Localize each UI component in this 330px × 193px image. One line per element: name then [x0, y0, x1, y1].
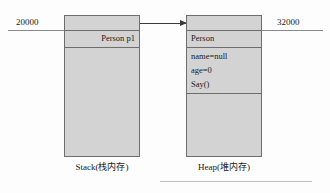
heap-class-label: Person [191, 33, 214, 44]
stack-variable-label: Person p1 [101, 33, 135, 44]
heap-member-field-age: age=0 [191, 63, 261, 77]
heap-member-field-name: name=null [191, 49, 261, 63]
bottom-rule [160, 181, 312, 182]
heap-caption: Heap(堆内存) [176, 163, 272, 172]
heap-address-leader-line [261, 30, 323, 31]
stack-variable-cell: Person p1 [65, 31, 139, 48]
heap-memory-box: Person name=null age=0 Say() [186, 15, 262, 157]
heap-free-space-cell [187, 94, 261, 157]
memory-diagram: 20000 32000 Person p1 Person name=null a… [0, 0, 330, 193]
stack-top-cell [65, 16, 139, 31]
stack-free-space-cell [65, 48, 139, 157]
stack-caption: Stack(栈内存) [54, 163, 150, 172]
heap-member-method-say: Say() [191, 77, 261, 91]
stack-memory-box: Person p1 [64, 15, 140, 157]
heap-address-label: 32000 [277, 18, 300, 27]
stack-address-leader-line [8, 30, 66, 31]
heap-class-cell: Person [187, 31, 261, 48]
stack-address-label: 20000 [16, 18, 39, 27]
heap-top-cell [187, 16, 261, 31]
reference-arrow [140, 23, 186, 24]
heap-members-cell: name=null age=0 Say() [187, 48, 261, 94]
